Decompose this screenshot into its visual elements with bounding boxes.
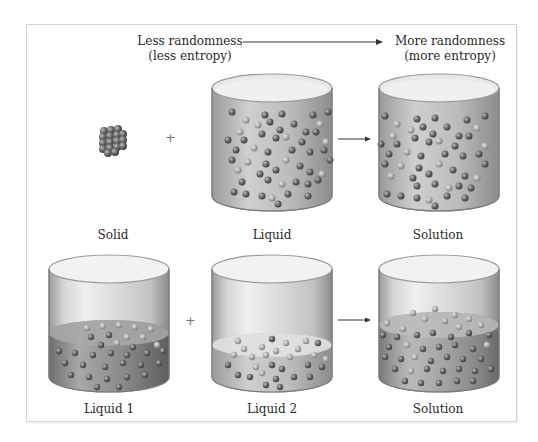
plus-operator: + — [165, 130, 176, 145]
mixed-solution-beaker — [377, 253, 501, 395]
liquid2-beaker — [210, 253, 334, 395]
mixed-solution-label: Solution — [378, 402, 498, 416]
less-entropy-label: (less entropy) — [130, 49, 250, 64]
right-arrow-icon — [240, 37, 385, 47]
less-randomness-label: Less randomness — [130, 34, 250, 49]
solution-beaker — [377, 72, 501, 214]
liquid-label: Liquid — [212, 228, 332, 242]
liquid-beaker — [210, 72, 334, 214]
liquid2-label: Liquid 2 — [212, 402, 332, 416]
solid-label: Solid — [53, 228, 173, 242]
less-randomness-caption: Less randomness (less entropy) — [130, 34, 250, 64]
more-randomness-label: More randomness — [385, 34, 515, 49]
liquid1-label: Liquid 1 — [49, 402, 169, 416]
right-arrow-icon — [338, 316, 372, 324]
more-entropy-label: (more entropy) — [385, 49, 515, 64]
liquid1-beaker — [47, 253, 171, 395]
solid-crystal-icon — [96, 124, 130, 158]
right-arrow-icon — [338, 135, 372, 143]
more-randomness-caption: More randomness (more entropy) — [385, 34, 515, 64]
plus-operator: + — [185, 313, 196, 328]
solution-label: Solution — [378, 228, 498, 242]
